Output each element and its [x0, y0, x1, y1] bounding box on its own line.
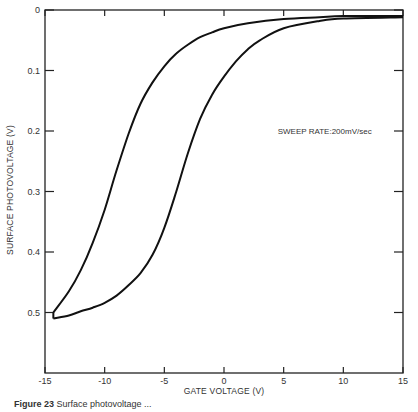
y-axis: 00.10.20.30.40.5	[27, 5, 403, 318]
y-tick-label: 0.1	[27, 66, 40, 76]
x-tick-label: 0	[221, 376, 226, 386]
x-tick-label: 5	[281, 376, 286, 386]
y-axis-title: SURFACE PHOTOVOLTAGE (V)	[5, 125, 15, 255]
x-tick-label: -15	[38, 376, 51, 386]
data-series	[53, 16, 403, 319]
y-tick-label: 0.2	[27, 126, 40, 136]
y-tick-label: 0.4	[27, 247, 40, 257]
x-tick-label: -5	[160, 376, 168, 386]
plot-frame	[45, 10, 403, 373]
curve-sweep-right-branch	[53, 17, 403, 318]
x-tick-label: 15	[398, 376, 408, 386]
chart-svg: -15-10-5051015 00.10.20.30.40.5 SWEEP RA…	[0, 0, 418, 400]
annotations: SWEEP RATE:200mV/sec	[278, 127, 372, 136]
y-tick-label: 0	[35, 5, 40, 15]
sweep-rate-annotation: SWEEP RATE:200mV/sec	[278, 127, 372, 136]
x-tick-label: -10	[98, 376, 111, 386]
plot-border	[45, 10, 403, 373]
x-axis-title: GATE VOLTAGE (V)	[184, 386, 265, 396]
y-tick-label: 0.5	[27, 308, 40, 318]
figure-caption: Figure 23 Surface photovoltage ...	[14, 399, 152, 409]
caption-label: Figure 23	[14, 399, 54, 409]
curve-sweep-left-branch	[53, 16, 403, 313]
x-tick-label: 10	[338, 376, 348, 386]
x-axis: -15-10-5051015	[38, 10, 408, 386]
caption-text: Surface photovoltage ...	[57, 399, 152, 409]
y-tick-label: 0.3	[27, 187, 40, 197]
